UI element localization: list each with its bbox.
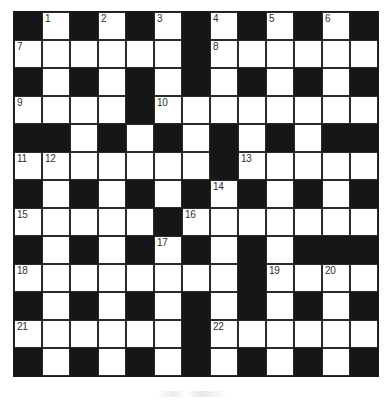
- crossword-cell-open[interactable]: 18: [14, 264, 42, 292]
- crossword-cell-open[interactable]: [294, 96, 322, 124]
- crossword-cell-open[interactable]: 9: [14, 96, 42, 124]
- crossword-cell-open[interactable]: [70, 152, 98, 180]
- crossword-cell-open[interactable]: [98, 68, 126, 96]
- crossword-cell-open[interactable]: 12: [42, 152, 70, 180]
- crossword-cell-open[interactable]: 5: [266, 12, 294, 40]
- crossword-cell-open[interactable]: 14: [210, 180, 238, 208]
- crossword-cell-open[interactable]: [266, 292, 294, 320]
- crossword-cell-open[interactable]: 17: [154, 236, 182, 264]
- crossword-cell-open[interactable]: [70, 124, 98, 152]
- crossword-cell-open[interactable]: [238, 40, 266, 68]
- crossword-cell-open[interactable]: [210, 348, 238, 376]
- crossword-cell-open[interactable]: 8: [210, 40, 238, 68]
- crossword-cell-open[interactable]: 16: [182, 208, 210, 236]
- crossword-cell-open[interactable]: [42, 208, 70, 236]
- crossword-cell-open[interactable]: [98, 236, 126, 264]
- crossword-cell-open[interactable]: [182, 264, 210, 292]
- crossword-cell-open[interactable]: [42, 68, 70, 96]
- crossword-cell-open[interactable]: [98, 320, 126, 348]
- crossword-cell-open[interactable]: [126, 152, 154, 180]
- crossword-cell-open[interactable]: [210, 236, 238, 264]
- crossword-cell-open[interactable]: [70, 208, 98, 236]
- crossword-cell-open[interactable]: [350, 264, 378, 292]
- crossword-cell-open[interactable]: [126, 320, 154, 348]
- crossword-cell-open[interactable]: [294, 264, 322, 292]
- crossword-cell-open[interactable]: 22: [210, 320, 238, 348]
- crossword-cell-open[interactable]: [70, 320, 98, 348]
- crossword-cell-open[interactable]: [98, 152, 126, 180]
- crossword-cell-open[interactable]: [98, 348, 126, 376]
- crossword-cell-open[interactable]: [154, 348, 182, 376]
- crossword-cell-open[interactable]: [42, 40, 70, 68]
- crossword-cell-open[interactable]: 2: [98, 12, 126, 40]
- crossword-cell-open[interactable]: [154, 152, 182, 180]
- crossword-cell-open[interactable]: [266, 96, 294, 124]
- crossword-cell-open[interactable]: [42, 96, 70, 124]
- crossword-cell-open[interactable]: [294, 40, 322, 68]
- crossword-cell-open[interactable]: [182, 152, 210, 180]
- crossword-cell-open[interactable]: [350, 320, 378, 348]
- crossword-cell-open[interactable]: [294, 124, 322, 152]
- crossword-cell-open[interactable]: [70, 264, 98, 292]
- crossword-cell-open[interactable]: [266, 208, 294, 236]
- crossword-cell-open[interactable]: [350, 152, 378, 180]
- crossword-cell-open[interactable]: [294, 320, 322, 348]
- crossword-cell-open[interactable]: 20: [322, 264, 350, 292]
- crossword-cell-open[interactable]: [42, 348, 70, 376]
- crossword-cell-open[interactable]: [42, 236, 70, 264]
- crossword-cell-open[interactable]: [42, 180, 70, 208]
- crossword-cell-open[interactable]: [294, 208, 322, 236]
- crossword-cell-open[interactable]: [210, 292, 238, 320]
- crossword-cell-open[interactable]: 15: [14, 208, 42, 236]
- crossword-cell-open[interactable]: [322, 40, 350, 68]
- crossword-cell-open[interactable]: [42, 320, 70, 348]
- crossword-cell-open[interactable]: [154, 180, 182, 208]
- crossword-cell-open[interactable]: [154, 292, 182, 320]
- crossword-cell-open[interactable]: [238, 124, 266, 152]
- crossword-cell-open[interactable]: [182, 124, 210, 152]
- crossword-cell-open[interactable]: [266, 40, 294, 68]
- crossword-cell-open[interactable]: [238, 320, 266, 348]
- crossword-cell-open[interactable]: [266, 68, 294, 96]
- crossword-cell-open[interactable]: [322, 292, 350, 320]
- crossword-cell-open[interactable]: [322, 320, 350, 348]
- crossword-cell-open[interactable]: 21: [14, 320, 42, 348]
- crossword-cell-open[interactable]: 13: [238, 152, 266, 180]
- crossword-cell-open[interactable]: 11: [14, 152, 42, 180]
- crossword-cell-open[interactable]: [126, 264, 154, 292]
- crossword-cell-open[interactable]: [266, 320, 294, 348]
- crossword-cell-open[interactable]: 6: [322, 12, 350, 40]
- crossword-cell-open[interactable]: [210, 208, 238, 236]
- crossword-cell-open[interactable]: [322, 208, 350, 236]
- crossword-cell-open[interactable]: [322, 180, 350, 208]
- crossword-cell-open[interactable]: [98, 180, 126, 208]
- crossword-cell-open[interactable]: 1: [42, 12, 70, 40]
- crossword-cell-open[interactable]: [154, 264, 182, 292]
- crossword-grid[interactable]: 12345678910111213141516171819202122: [13, 11, 379, 377]
- crossword-cell-open[interactable]: [98, 292, 126, 320]
- crossword-cell-open[interactable]: [350, 40, 378, 68]
- crossword-cell-open[interactable]: [42, 264, 70, 292]
- crossword-cell-open[interactable]: 7: [14, 40, 42, 68]
- crossword-cell-open[interactable]: [126, 124, 154, 152]
- crossword-cell-open[interactable]: 4: [210, 12, 238, 40]
- crossword-cell-open[interactable]: [238, 96, 266, 124]
- crossword-cell-open[interactable]: [210, 96, 238, 124]
- crossword-cell-open[interactable]: [322, 152, 350, 180]
- crossword-cell-open[interactable]: [126, 208, 154, 236]
- crossword-cell-open[interactable]: [42, 292, 70, 320]
- crossword-cell-open[interactable]: [70, 96, 98, 124]
- crossword-cell-open[interactable]: [126, 40, 154, 68]
- crossword-cell-open[interactable]: [98, 208, 126, 236]
- crossword-cell-open[interactable]: [266, 348, 294, 376]
- crossword-cell-open[interactable]: 19: [266, 264, 294, 292]
- crossword-cell-open[interactable]: [182, 96, 210, 124]
- crossword-cell-open[interactable]: [350, 208, 378, 236]
- crossword-cell-open[interactable]: [98, 96, 126, 124]
- crossword-cell-open[interactable]: [154, 320, 182, 348]
- crossword-cell-open[interactable]: [154, 68, 182, 96]
- crossword-cell-open[interactable]: [322, 348, 350, 376]
- crossword-cell-open[interactable]: [98, 40, 126, 68]
- crossword-cell-open[interactable]: [70, 40, 98, 68]
- crossword-cell-open[interactable]: [210, 68, 238, 96]
